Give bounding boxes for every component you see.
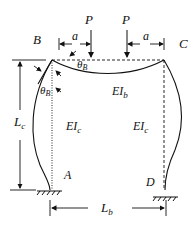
column-d-stiffness-label: EIc (132, 119, 148, 135)
deformed-frame (33, 60, 182, 190)
fixed-support-d (153, 197, 178, 201)
beam-length-label: Lb (100, 200, 113, 217)
beam-stiffness-label: EIb (111, 84, 128, 100)
load-p-right-label: P (121, 12, 130, 27)
column-length-label: Lc (13, 114, 25, 131)
node-a-label: A (63, 168, 72, 182)
load-p-left-label: P (84, 12, 93, 27)
node-c-label: C (179, 36, 188, 51)
offset-a-left-label: a (72, 29, 78, 43)
theta-b-beam-label: θB (77, 58, 87, 72)
offset-a-right-label: a (143, 29, 149, 43)
load-arrows (91, 30, 127, 57)
node-b-label: B (33, 32, 41, 47)
portal-frame-diagram: B C A D P P a a θB θB EIb EIc EIc Lc Lb (0, 0, 195, 228)
theta-b-column-label: θB (40, 84, 50, 98)
column-a-stiffness-label: EIc (65, 119, 81, 135)
node-d-label: D (145, 175, 155, 189)
fixed-support-a (37, 191, 62, 195)
